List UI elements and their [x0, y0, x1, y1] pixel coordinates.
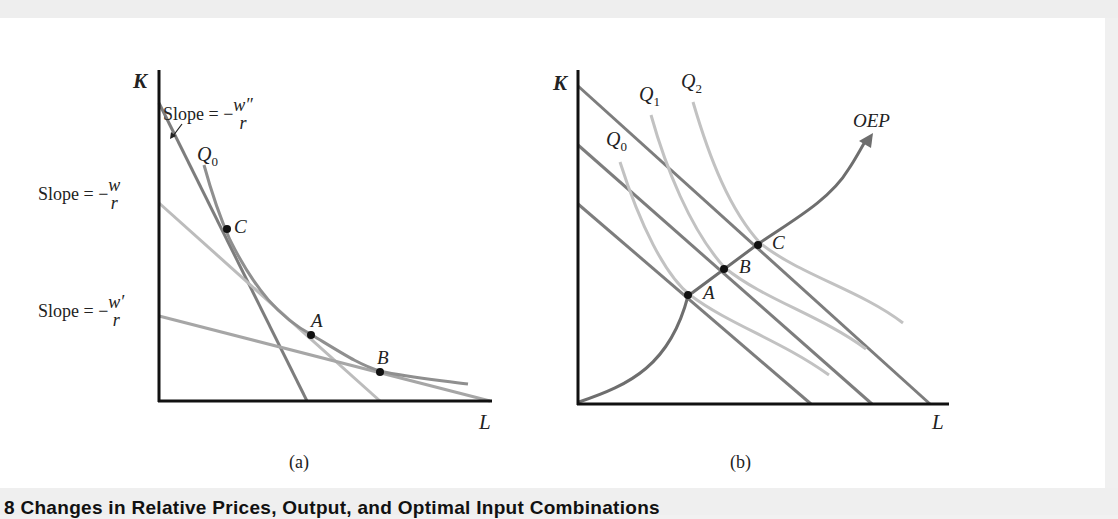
point-b [720, 265, 728, 273]
caption-bar: 8 Changes in Relative Prices, Output, an… [0, 488, 1118, 515]
panel-b-point-b-label: B [739, 256, 751, 278]
panel-a-y-axis-label: K [133, 69, 147, 94]
isocost-line-2 [578, 145, 872, 404]
slope-label-w-prime: Slope = −w′r [38, 297, 124, 329]
isocost-steep-line [159, 103, 307, 401]
slope-fraction: w″r [233, 96, 253, 132]
panel-b-x-axis-label: L [932, 410, 944, 435]
panel-b-isoquant-q2-label: Q2 [681, 70, 702, 97]
expansion-path-label: OEP [853, 110, 890, 132]
panel-b-label: (b) [730, 452, 751, 473]
slope-label-w-double-prime: Slope = −w″r [163, 100, 253, 132]
isocost-flat-line [159, 316, 490, 401]
point-a [684, 291, 692, 299]
point-a [307, 331, 315, 339]
panel-b-point-a-label: A [703, 282, 715, 304]
panel-a-label: (a) [289, 452, 309, 473]
panel-a-point-c-label: C [234, 216, 247, 238]
panel-b [577, 70, 949, 405]
panel-b-y-axis-label: K [553, 71, 567, 96]
point-c [754, 241, 762, 249]
slope-label-w: Slope = −wr [38, 180, 120, 212]
point-c [223, 225, 231, 233]
panel-a-x-axis-label: L [479, 410, 491, 435]
panel-b-isoquant-q0-label: Q0 [606, 128, 627, 155]
figure-caption: 8 Changes in Relative Prices, Output, an… [4, 497, 660, 519]
panel-a-isoquant-label: Q0 [197, 143, 218, 170]
panel-b-point-c-label: C [772, 232, 785, 254]
panel-b-isoquant-q1-label: Q1 [639, 83, 660, 110]
slope-prefix: Slope = − [163, 104, 233, 124]
panel-a-point-b-label: B [377, 347, 389, 369]
point-b [376, 368, 384, 376]
panel-a-point-a-label: A [311, 310, 323, 332]
